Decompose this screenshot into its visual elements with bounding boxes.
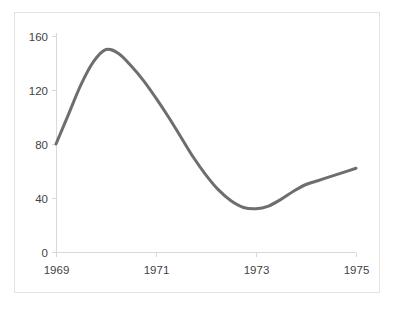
x-axis-tick-labels: 1969197119731975 [44, 264, 370, 276]
y-axis-tick-labels: 04080120160 [29, 31, 48, 259]
y-tick-label: 80 [35, 139, 48, 151]
x-tick-label: 1975 [344, 264, 370, 276]
y-axis: 04080120160 [29, 31, 57, 259]
x-axis: 1969197119731975 [44, 253, 370, 277]
y-tick-label: 160 [29, 31, 48, 43]
x-tick-label: 1969 [44, 264, 70, 276]
y-tick-label: 40 [35, 193, 48, 205]
line-chart: 04080120160 1969197119731975 [0, 0, 395, 311]
series-line [56, 49, 356, 209]
x-tick-label: 1973 [244, 264, 270, 276]
y-tick-label: 120 [29, 85, 48, 97]
data-series-group [56, 49, 356, 209]
y-tick-label: 0 [42, 247, 48, 259]
x-axis-ticks [57, 253, 357, 258]
x-tick-label: 1971 [144, 264, 170, 276]
